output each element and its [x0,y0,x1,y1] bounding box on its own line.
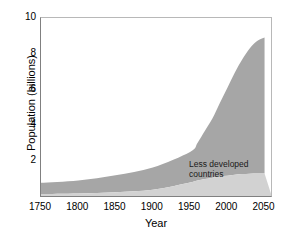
x-axis-tick-mark [265,196,266,197]
x-axis-tick-labels: 1750180018501900195020002050 [40,201,272,215]
less-developed-countries-label: Less developed countries [189,159,249,179]
x-axis-tick-mark [227,196,228,197]
population-area-chart: Population (billions) 246810 Less develo… [0,0,287,245]
y-axis-tick-mark [40,161,41,162]
y-axis-tick-mark [40,18,41,19]
y-axis-tick-label: 4 [14,119,36,129]
y-axis-tick-mark [40,54,41,55]
x-axis-tick-label: 1850 [103,201,125,213]
x-axis-tick-mark [116,196,117,197]
y-axis-tick-mark [40,125,41,126]
x-axis-title: Year [40,217,272,229]
x-axis-tick-mark [190,196,191,197]
x-axis-tick-label: 2000 [215,201,237,213]
x-axis-tick-label: 1750 [29,201,51,213]
x-axis-tick-mark [153,196,154,197]
y-axis-tick-mark [40,90,41,91]
x-axis-tick-label: 2050 [252,201,274,213]
x-axis-tick-mark [41,196,42,197]
x-axis-tick-label: 1900 [141,201,163,213]
y-axis-tick-label: 2 [14,155,36,165]
y-axis-tick-label: 8 [14,48,36,58]
y-axis-tick-label: 6 [14,84,36,94]
x-axis-tick-label: 1950 [178,201,200,213]
x-axis-tick-label: 1800 [66,201,88,213]
y-axis-tick-label: 10 [14,12,36,22]
x-axis-tick-mark [78,196,79,197]
plot-area: Less developed countries More developed … [40,17,272,197]
